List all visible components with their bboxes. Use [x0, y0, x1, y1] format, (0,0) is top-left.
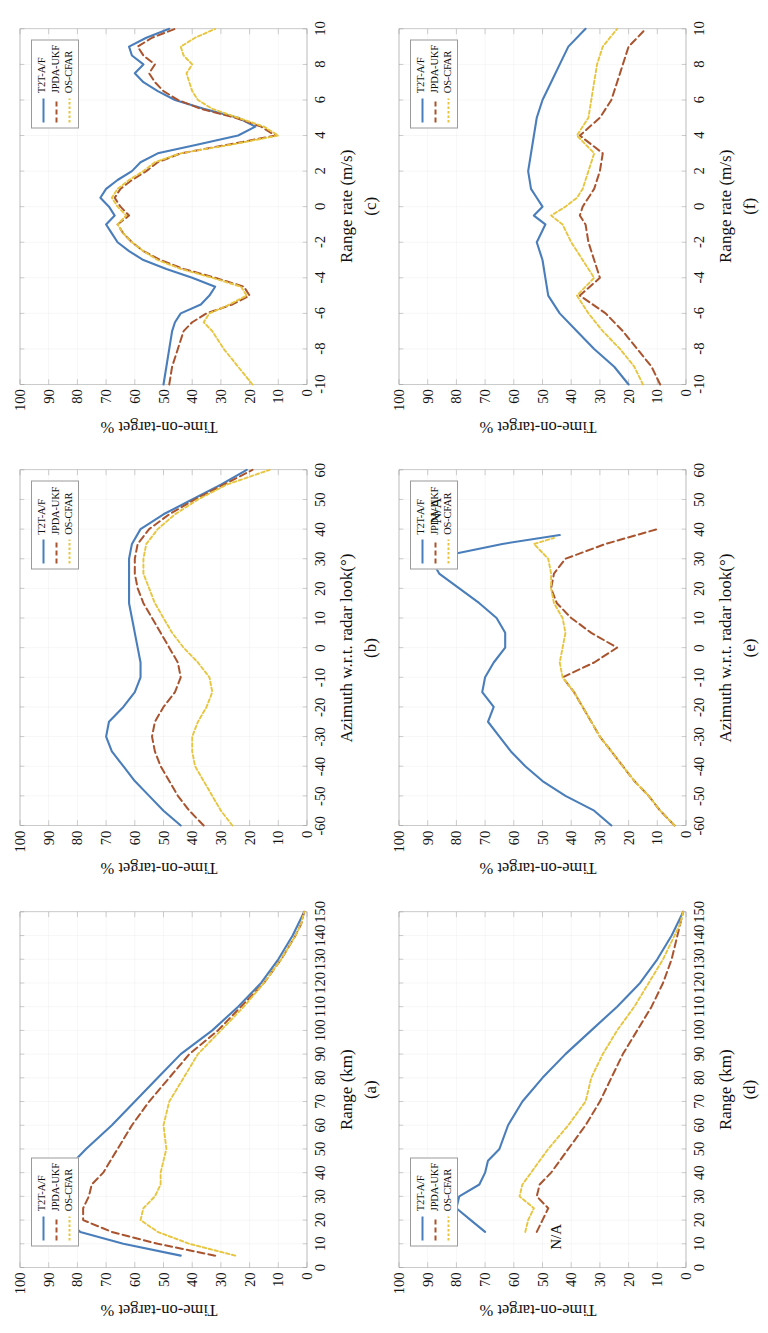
y-tick-label: 50 — [155, 1272, 172, 1287]
series-line-t2t — [100, 28, 255, 384]
legend-label-os: OS-CFAR — [441, 1169, 454, 1211]
x-tick-label: 80 — [312, 1070, 329, 1085]
legend: T2T-A/FJPDA-UKFOS-CFAR — [31, 480, 78, 569]
y-tick-label: 90 — [40, 1272, 57, 1287]
legend-item-os: OS-CFAR — [62, 1163, 75, 1241]
legend-label-t2t: T2T-A/F — [414, 1175, 427, 1211]
y-tick-label: 10 — [649, 830, 666, 845]
y-tick-label: 10 — [649, 1272, 666, 1287]
x-tick-label: 110 — [691, 996, 708, 1017]
x-tick-label: 80 — [691, 1070, 708, 1085]
x-tick-label: -40 — [312, 756, 329, 775]
y-tick-label: 70 — [477, 1272, 494, 1287]
y-tick-label: 60 — [505, 1272, 522, 1287]
y-tick-label: 30 — [591, 1272, 608, 1287]
legend-label-jpda: JPDA-UKF — [49, 45, 62, 93]
x-tick-label: 6 — [691, 96, 708, 103]
legend: T2T-A/FJPDA-UKFOS-CFAR — [410, 1157, 457, 1246]
x-tick-label: 50 — [691, 1141, 708, 1156]
x-tick-label: 10 — [691, 611, 708, 626]
plot-area: 0102030405060708090100-10-8-6-4-20246810… — [399, 28, 686, 384]
x-tick-label: 8 — [312, 60, 329, 67]
y-axis-label: Time-on-target % — [389, 416, 686, 436]
y-tick-label: 60 — [505, 389, 522, 404]
legend-swatch-jpda-icon — [430, 1215, 439, 1241]
y-tick-label: 40 — [184, 1272, 201, 1287]
y-tick-label: 90 — [419, 389, 436, 404]
legend-swatch-os-icon — [64, 97, 73, 123]
series-line-os — [143, 470, 269, 826]
y-tick-label: 60 — [505, 830, 522, 845]
legend-swatch-os-icon — [443, 538, 452, 564]
legend: T2T-A/FJPDA-UKFOS-CFAR — [31, 1157, 78, 1246]
panel-inner: Time-on-target %0102030405060708090100-1… — [389, 14, 760, 442]
x-tick-label: 2 — [691, 167, 708, 174]
y-tick-label: 100 — [12, 1272, 29, 1294]
y-tick-label: 80 — [69, 389, 86, 404]
y-tick-label: 10 — [270, 389, 287, 404]
panel-tag: (e) — [740, 470, 760, 826]
legend-swatch-t2t-icon — [38, 538, 47, 564]
x-tick-label: -10 — [312, 374, 329, 393]
y-tick-label: 50 — [155, 830, 172, 845]
legend-label-t2t: T2T-A/F — [35, 499, 48, 535]
x-tick-label: 20 — [312, 581, 329, 596]
x-axis-label: Azimuth w.r.t. radar look(°) — [337, 470, 357, 826]
series-line-os — [112, 28, 278, 384]
y-tick-label: 90 — [419, 1272, 436, 1287]
legend-label-os: OS-CFAR — [62, 1169, 75, 1211]
x-tick-label: 4 — [691, 131, 708, 138]
legend-swatch-os-icon — [64, 1215, 73, 1241]
x-axis-label: Azimuth w.r.t. radar look(°) — [716, 470, 736, 826]
y-tick-label: 80 — [69, 830, 86, 845]
y-tick-label: 50 — [534, 389, 551, 404]
x-tick-label: 10 — [691, 1236, 708, 1251]
legend-item-jpda: JPDA-UKF — [49, 1163, 62, 1241]
legend-item-t2t: T2T-A/F — [414, 486, 427, 564]
x-tick-label: 50 — [691, 492, 708, 507]
legend-label-os: OS-CFAR — [62, 492, 75, 534]
x-tick-label: 0 — [312, 1263, 329, 1270]
panel-tag: (f) — [740, 28, 760, 384]
y-axis-label: Time-on-target % — [10, 1299, 307, 1319]
legend-item-os: OS-CFAR — [62, 45, 75, 123]
x-tick-label: 20 — [691, 581, 708, 596]
y-axis-label: Time-on-target % — [389, 857, 686, 877]
plot-area: 0102030405060708090100010203040506070809… — [20, 911, 307, 1267]
x-tick-label: 30 — [312, 551, 329, 566]
plot-area: 0102030405060708090100-10-8-6-4-20246810… — [20, 28, 307, 384]
y-tick-label: 20 — [241, 1272, 258, 1287]
y-tick-label: 10 — [649, 389, 666, 404]
y-tick-label: 90 — [40, 389, 57, 404]
y-tick-label: 30 — [212, 1272, 229, 1287]
legend-item-t2t: T2T-A/F — [414, 1163, 427, 1241]
x-tick-label: 120 — [691, 972, 708, 994]
series-line-t2t — [49, 911, 304, 1255]
x-tick-label: 30 — [691, 1189, 708, 1204]
legend-swatch-t2t-icon — [417, 1215, 426, 1241]
legend-swatch-jpda-icon — [51, 1215, 60, 1241]
x-tick-label: -40 — [691, 756, 708, 775]
plot-area: 0102030405060708090100-60-50-40-30-20-10… — [399, 470, 686, 826]
x-tick-label: -30 — [691, 727, 708, 746]
panel-tag: (d) — [740, 911, 760, 1267]
y-tick-label: 70 — [477, 389, 494, 404]
y-axis-label-text: Time-on-target % — [100, 416, 217, 436]
y-tick-label: 70 — [98, 830, 115, 845]
x-tick-label: 60 — [691, 1118, 708, 1133]
y-axis-label: Time-on-target % — [389, 1299, 686, 1319]
y-tick-label: 50 — [534, 830, 551, 845]
x-tick-label: -4 — [691, 271, 708, 283]
x-tick-label: -10 — [312, 667, 329, 686]
x-tick-label: 8 — [691, 60, 708, 67]
x-tick-label: 140 — [691, 924, 708, 946]
legend-swatch-os-icon — [64, 538, 73, 564]
y-tick-label: 10 — [270, 1272, 287, 1287]
y-tick-label: 40 — [563, 389, 580, 404]
series-line-t2t — [106, 470, 247, 826]
x-tick-label: 20 — [312, 1212, 329, 1227]
panel-inner: Time-on-target %010203040506070809010001… — [389, 897, 760, 1325]
y-axis-label-text: Time-on-target % — [479, 416, 596, 436]
x-tick-label: 4 — [312, 131, 329, 138]
x-tick-label: -2 — [691, 235, 708, 247]
